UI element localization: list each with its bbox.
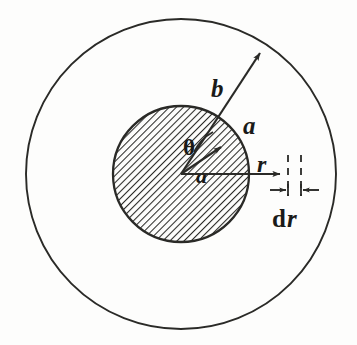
label-dr: dr [272,205,297,232]
label-a-inner: a [196,163,207,188]
differential-dr-group: dr [270,155,319,232]
label-a-outer: a [243,112,256,139]
label-dr-d: d [272,205,286,232]
figure-container: b a a θ r [0,0,357,345]
label-theta: θ [183,135,195,160]
label-r: r [257,151,267,177]
label-dr-r: r [287,205,297,232]
circle-diagram-svg: b a a θ r [0,0,357,345]
label-b: b [211,75,224,102]
